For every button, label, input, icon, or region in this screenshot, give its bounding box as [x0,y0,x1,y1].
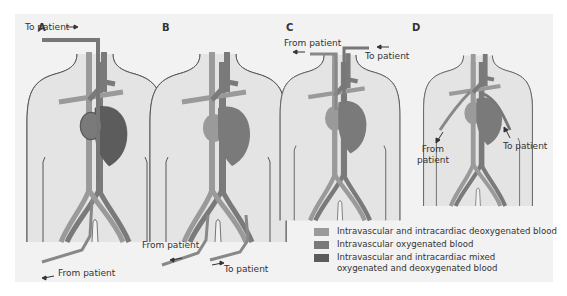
legend-text-mixed: Intravascular and intracardiac mixed oxy… [337,252,517,274]
legend-item-oxygenated: Intravascular oxygenated blood [314,239,557,252]
panel-b-from-patient-label: From patient [142,240,199,251]
panel-label-b: B [162,22,170,33]
panel-d-from-patient-label: From patient [416,144,450,166]
legend-swatch-deoxygenated [314,228,329,236]
panel-b-to-patient-label: To patient [224,264,268,275]
legend-swatch-mixed [314,254,329,262]
panel-label-d: D [412,22,420,33]
legend: Intravascular and intracardiac deoxygena… [314,226,557,276]
panel-c-diagram [280,48,400,220]
panel-a-diagram [27,40,163,262]
legend-text-oxygenated: Intravascular oxygenated blood [337,239,473,250]
panel-d-diagram [424,54,533,206]
panel-b-diagram [150,52,286,265]
panel-d-to-patient-label: To patient [503,141,547,152]
panel-label-c: C [286,22,293,33]
panel-a-to-patient-label: To patient [25,22,69,33]
panel-a-from-patient-label: From patient [58,268,115,279]
panel-d-from-patient-text: From patient [417,144,449,165]
legend-item-mixed: Intravascular and intracardiac mixed oxy… [314,252,557,276]
legend-text-deoxygenated: Intravascular and intracardiac deoxygena… [337,226,557,237]
legend-swatch-oxygenated [314,241,329,249]
panel-c-from-patient-label: From patient [284,38,341,49]
panel-c-to-patient-label: To patient [365,51,409,62]
legend-item-deoxygenated: Intravascular and intracardiac deoxygena… [314,226,557,239]
